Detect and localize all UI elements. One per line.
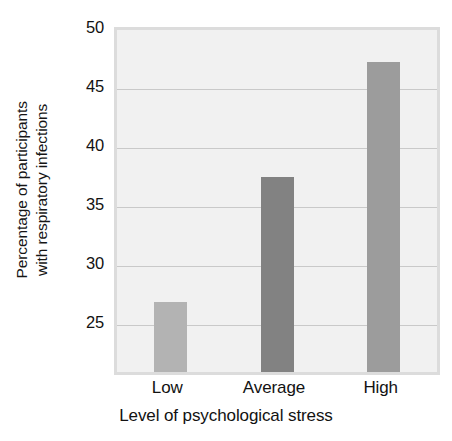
- y-tick-label-50: 50: [86, 18, 104, 37]
- y-tick-label-40: 40: [86, 135, 104, 154]
- y-axis-title-line-2: with respiratory infections: [32, 101, 52, 278]
- y-axis-title-text: Percentage of participants with respirat…: [12, 101, 52, 278]
- bar-high[interactable]: [367, 62, 400, 372]
- y-tick-label-25: 25: [86, 312, 104, 331]
- y-tick-label-30: 30: [86, 253, 104, 272]
- y-tick-label-35: 35: [86, 194, 104, 213]
- y-axis-title: Percentage of participants with respirat…: [0, 0, 64, 380]
- x-axis-tick-labels: LowAverageHigh: [114, 378, 440, 404]
- plot-area: [114, 27, 440, 375]
- y-tick-label-45: 45: [86, 77, 104, 96]
- x-tick-label-low: Low: [152, 378, 183, 398]
- x-tick-label-high: High: [363, 378, 398, 398]
- plot-inner: [117, 30, 437, 372]
- bar-low[interactable]: [154, 302, 187, 372]
- bar-average[interactable]: [261, 177, 294, 372]
- bar-chart-figure: Percentage of participants with respirat…: [0, 0, 452, 441]
- x-axis-title: Level of psychological stress: [0, 406, 452, 426]
- y-axis-tick-labels: 504540353025: [58, 0, 110, 441]
- y-axis-title-line-1: Percentage of participants: [12, 101, 32, 278]
- x-tick-label-average: Average: [243, 378, 305, 398]
